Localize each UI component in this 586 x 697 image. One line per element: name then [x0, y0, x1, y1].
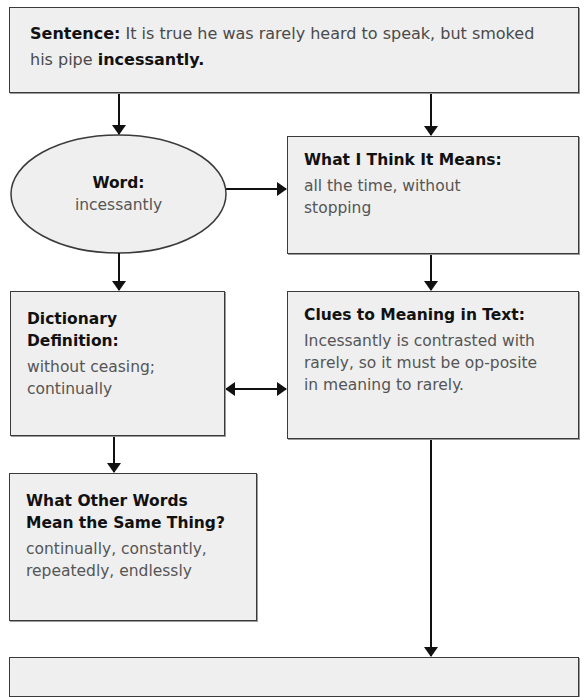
clues-box: Clues to Meaning in Text: Incessantly is…: [287, 291, 579, 439]
other-words-value: continually, constantly, repeatedly, end…: [26, 538, 236, 582]
word-value: incessantly: [75, 194, 162, 216]
sentence-highlight-word: incessantly.: [98, 50, 205, 69]
dictionary-value: without ceasing; continually: [27, 356, 187, 400]
word-node: Word: incessantly: [11, 135, 226, 253]
clues-label: Clues to Meaning in Text:: [304, 304, 562, 326]
other-words-label-line1: What Other Words: [26, 490, 240, 512]
sentence-text: Sentence: It is true he was rarely heard…: [30, 21, 558, 73]
what-i-think-value: all the time, without stopping: [304, 175, 494, 219]
clues-value: Incessantly is contrasted with rarely, s…: [304, 330, 554, 396]
other-words-box: What Other Words Mean the Same Thing? co…: [9, 473, 257, 621]
dictionary-label-line1: Dictionary: [27, 308, 208, 330]
what-i-think-box: What I Think It Means: all the time, wit…: [287, 136, 579, 254]
sentence-label: Sentence:: [30, 24, 120, 43]
dictionary-label-line2: Definition:: [27, 330, 208, 352]
word-label: Word:: [92, 172, 144, 194]
dictionary-box: Dictionary Definition: without ceasing; …: [10, 291, 225, 436]
bottom-box: [9, 657, 579, 697]
other-words-label-line2: Mean the Same Thing?: [26, 512, 240, 534]
what-i-think-label: What I Think It Means:: [304, 149, 562, 171]
sentence-box: Sentence: It is true he was rarely heard…: [9, 7, 579, 93]
